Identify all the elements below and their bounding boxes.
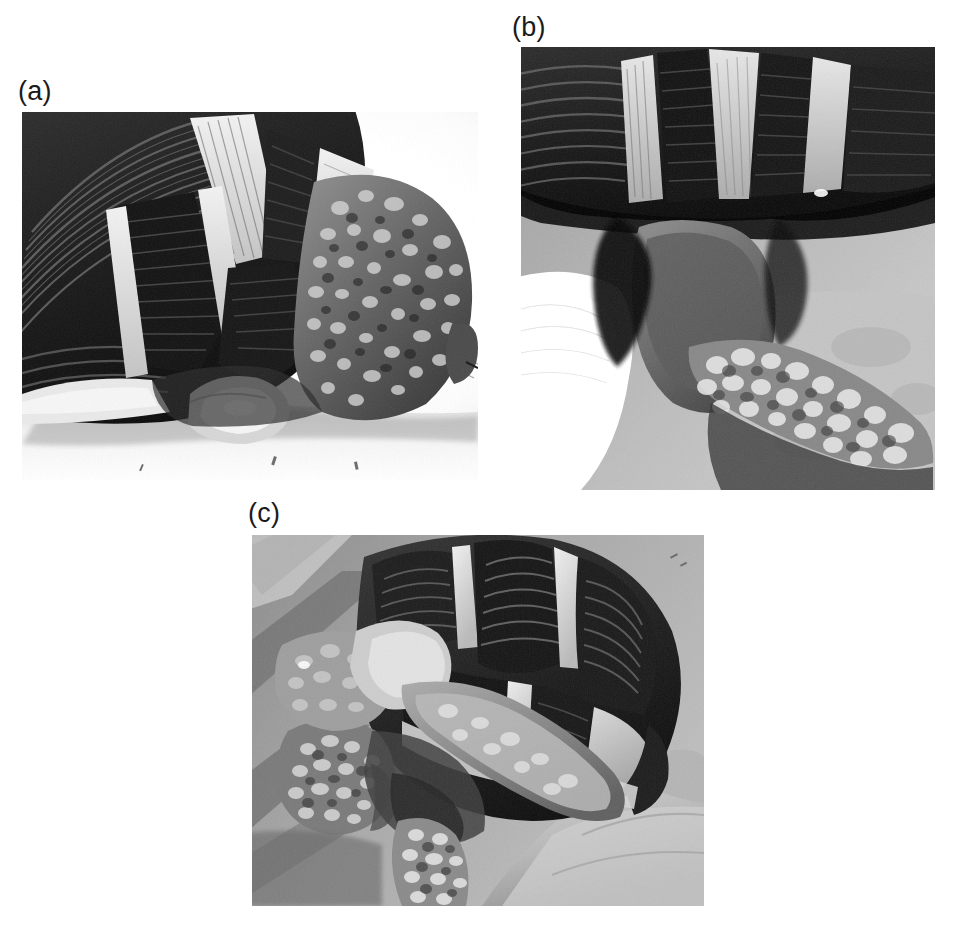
panel-image-a [22,112,478,480]
tortoise-photo-b [521,47,935,490]
tortoise-photo-a [22,112,478,480]
panel-label-c: (c) [248,500,280,527]
panel-label-a: (a) [18,78,52,105]
panel-image-b [521,47,935,490]
tortoise-photo-c [252,535,704,906]
panel-label-b: (b) [512,14,546,41]
figure-plate: (a) [0,0,956,930]
panel-image-c [252,535,704,906]
